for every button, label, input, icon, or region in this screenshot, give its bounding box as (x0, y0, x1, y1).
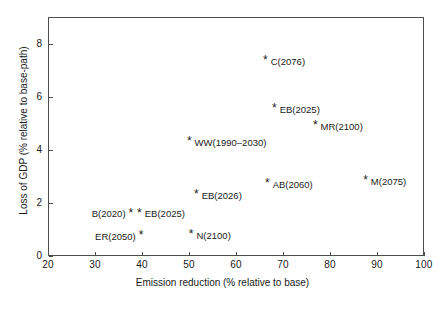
data-point-label: EB(2026) (202, 191, 242, 201)
x-tick-mark (95, 252, 96, 256)
data-point: B(2020)* (92, 209, 133, 219)
x-tick-label: 90 (357, 259, 397, 271)
asterisk-marker-icon: * (194, 190, 199, 199)
x-tick-mark (283, 252, 284, 256)
asterisk-marker-icon: * (189, 230, 194, 239)
data-point-label: C(2076) (271, 57, 305, 67)
data-point: *MR(2100) (313, 122, 363, 132)
scatter-chart-figure: 2030405060708090100 02468 *C(2076)*EB(20… (0, 0, 445, 310)
x-tick-mark (330, 252, 331, 256)
y-tick-mark (49, 150, 53, 151)
data-point-label: MR(2100) (321, 122, 363, 132)
data-point-label: M(2075) (371, 177, 406, 187)
asterisk-marker-icon: * (265, 179, 270, 188)
asterisk-marker-icon: * (137, 209, 142, 218)
data-point: ER(2050)* (95, 232, 143, 242)
data-point-label: EB(2025) (280, 105, 320, 115)
asterisk-marker-icon: * (129, 209, 134, 218)
x-tick-mark (236, 252, 237, 256)
data-point-label: B(2020) (92, 209, 126, 219)
data-point-label: WW(1990–2030) (195, 138, 267, 148)
y-tick-mark (49, 97, 53, 98)
data-point: *EB(2026) (194, 191, 242, 201)
y-tick-mark (49, 256, 53, 257)
y-axis-title: Loss of GDP (% relative to base-path) (18, 16, 29, 246)
data-point: *N(2100) (189, 231, 231, 241)
asterisk-marker-icon: * (272, 104, 277, 113)
x-tick-mark (377, 252, 378, 256)
data-point-label: ER(2050) (95, 232, 136, 242)
x-tick-label: 50 (169, 259, 209, 271)
asterisk-marker-icon: * (187, 137, 192, 146)
y-tick-mark (49, 203, 53, 204)
x-tick-mark (189, 252, 190, 256)
x-tick-mark (142, 252, 143, 256)
asterisk-marker-icon: * (313, 121, 318, 130)
y-tick-mark (49, 44, 53, 45)
asterisk-marker-icon: * (363, 176, 368, 185)
x-tick-mark (424, 252, 425, 256)
x-tick-label: 30 (75, 259, 115, 271)
data-point: *AB(2060) (265, 180, 313, 190)
data-point-label: AB(2060) (273, 180, 313, 190)
asterisk-marker-icon: * (263, 56, 268, 65)
data-point: *EB(2025) (272, 105, 320, 115)
x-tick-label: 100 (404, 259, 444, 271)
y-tick-label: 0 (22, 250, 42, 262)
asterisk-marker-icon: * (139, 231, 144, 240)
x-tick-label: 40 (122, 259, 162, 271)
x-tick-label: 60 (216, 259, 256, 271)
data-point: *EB(2025) (137, 209, 185, 219)
x-tick-label: 70 (263, 259, 303, 271)
data-point: *WW(1990–2030) (187, 138, 266, 148)
data-point-label: N(2100) (196, 231, 230, 241)
data-point: *C(2076) (263, 57, 305, 67)
x-tick-label: 80 (310, 259, 350, 271)
data-point: *M(2075) (363, 177, 406, 187)
data-point-label: EB(2025) (145, 209, 185, 219)
x-axis-title: Emission reduction (% relative to base) (0, 277, 445, 288)
